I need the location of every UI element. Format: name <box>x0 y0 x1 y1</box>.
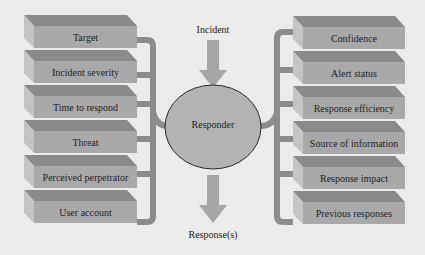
right-factor-response-impact: Response impact <box>303 167 405 189</box>
left-connector <box>137 40 168 222</box>
incident-arrow-icon <box>199 40 227 88</box>
left-factor-threat: Threat <box>34 131 137 153</box>
right-factor-confidence: Confidence <box>303 27 405 49</box>
left-factor-time-to-respond: Time to respond <box>34 96 137 118</box>
response-arrow-icon <box>199 175 227 223</box>
left-factor-perceived-perpetrator: Perceived perpetrator <box>34 166 137 188</box>
right-factor-response-efficiency: Response efficiency <box>303 97 405 119</box>
incident-label: Incident <box>183 24 243 35</box>
left-factor-target: Target <box>34 26 137 48</box>
right-factor-previous-responses: Previous responses <box>303 202 405 224</box>
left-factor-user-account: User account <box>34 201 137 223</box>
left-factor-incident-severity: Incident severity <box>34 61 137 83</box>
responder-label: Responder <box>173 119 253 130</box>
right-factor-source-of-information: Source of information <box>303 132 405 154</box>
response-label: Response(s) <box>173 229 253 240</box>
right-connector <box>260 32 293 222</box>
right-factor-alert-status: Alert status <box>303 62 405 84</box>
